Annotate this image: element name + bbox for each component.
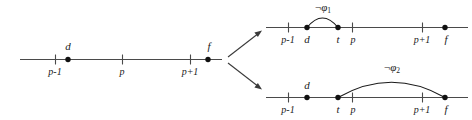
label-arc-not-phi-1-subscript: 1 — [327, 6, 331, 15]
point-dot-left-d — [65, 57, 70, 62]
timeline-top-right — [266, 18, 468, 33]
point-dot-left-f — [205, 57, 210, 62]
figure-canvas — [0, 0, 472, 120]
label-left-tick-p-plus-1: p+1 — [182, 67, 199, 77]
label-arc-not-phi-1: ¬φ1 — [315, 2, 331, 13]
label-arc-not-phi-2-subscript: 2 — [396, 66, 400, 75]
branch-arrow-up-line — [228, 33, 259, 57]
branch-arrows — [228, 31, 262, 90]
arc-not-phi-1 — [307, 18, 338, 28]
branch-arrow-down-line — [228, 63, 259, 87]
point-dot-top-right-d — [304, 25, 309, 30]
point-dot-bottom-right-t — [335, 95, 340, 100]
label-arc-not-phi-2: ¬φ2 — [384, 62, 400, 73]
label-bottom-right-point-t: t — [336, 104, 339, 115]
label-bottom-right-tick-p-minus-1: p-1 — [281, 105, 294, 115]
label-top-right-tick-p-minus-1: p-1 — [281, 35, 294, 45]
timeline-bottom-right — [266, 82, 468, 102]
point-dot-top-right-f — [442, 25, 447, 30]
label-bottom-right-tick-p-plus-1: p+1 — [414, 105, 431, 115]
label-bottom-right-point-f: f — [444, 104, 447, 115]
timeline-figure: d f p-1 p p+1 ¬φ1 d t f p-1 p p+1 ¬φ2 d … — [0, 0, 472, 120]
label-left-point-f: f — [207, 41, 210, 52]
label-bottom-right-point-d: d — [304, 80, 310, 91]
label-top-right-point-f: f — [444, 34, 447, 45]
label-top-right-point-t: t — [336, 34, 339, 45]
label-top-right-tick-p-plus-1: p+1 — [414, 35, 431, 45]
label-bottom-right-tick-p: p — [351, 105, 356, 115]
arc-not-phi-2 — [338, 82, 445, 97]
label-left-tick-p: p — [120, 67, 125, 77]
label-top-right-tick-p: p — [351, 35, 356, 45]
point-dot-top-right-t — [335, 25, 340, 30]
label-left-point-d: d — [65, 41, 71, 52]
point-dot-bottom-right-d — [304, 95, 309, 100]
label-left-tick-p-minus-1: p-1 — [48, 67, 61, 77]
timeline-left — [20, 55, 222, 65]
label-top-right-point-d: d — [304, 34, 310, 45]
point-dot-bottom-right-f — [442, 95, 447, 100]
